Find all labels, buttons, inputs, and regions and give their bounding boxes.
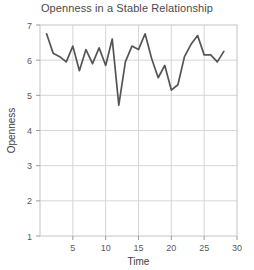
y-tick-label-1: 1	[27, 232, 32, 242]
x-tick-label-25: 25	[199, 243, 209, 253]
y-tick-label-4: 4	[27, 126, 32, 136]
x-tick-label-15: 15	[133, 243, 143, 253]
y-axis-title: Openness	[6, 108, 17, 154]
x-axis-title: Time	[128, 256, 150, 267]
y-tick-label-3: 3	[27, 161, 32, 171]
chart-screenshot: Openness in a Stable Relationship	[0, 0, 254, 270]
x-tick-label-20: 20	[166, 243, 176, 253]
y-tick-label-2: 2	[27, 196, 32, 206]
y-tick-label-6: 6	[27, 56, 32, 66]
x-tick-label-10: 10	[101, 243, 111, 253]
x-tick-label-5: 5	[70, 243, 75, 253]
y-tick-marks	[36, 25, 40, 236]
line-chart: 7 6 5 4 3 2 1 5 10 15 20 25 30 Time Open…	[0, 0, 254, 270]
x-tick-label-30: 30	[232, 243, 242, 253]
y-tick-label-5: 5	[27, 91, 32, 101]
y-tick-label-7: 7	[27, 21, 32, 31]
x-tick-marks	[73, 236, 237, 240]
